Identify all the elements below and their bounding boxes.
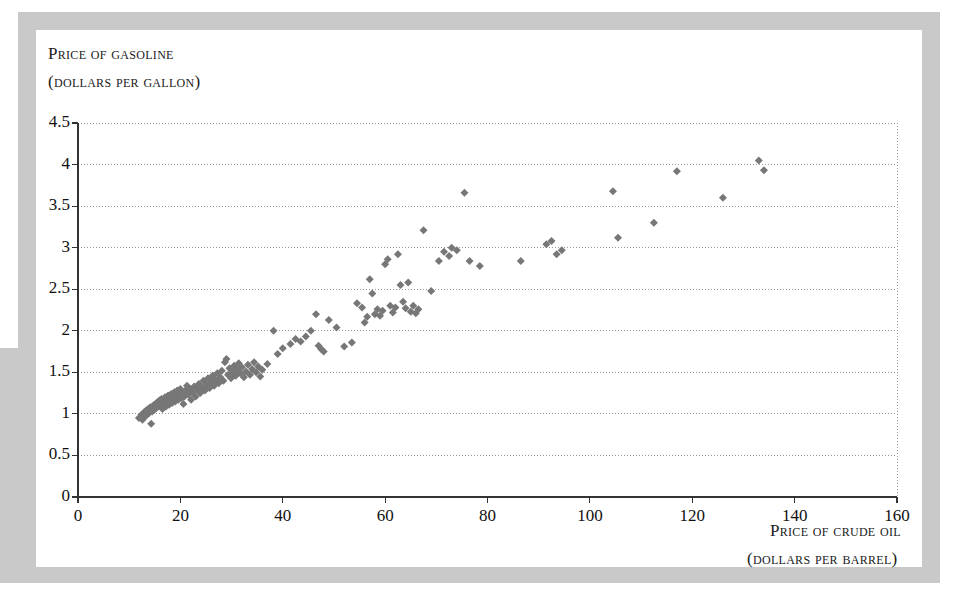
data-point-marker: [307, 327, 315, 335]
x-tick-label: 120: [662, 506, 722, 526]
x-tick-label: 40: [253, 506, 313, 526]
data-point-marker: [466, 257, 474, 265]
y-tick-label: 0: [22, 486, 70, 506]
x-tick-label: 60: [355, 506, 415, 526]
gridlines-group: [78, 123, 897, 497]
data-point-marker: [325, 316, 333, 324]
tick-marks-group: [72, 123, 897, 503]
data-point-marker: [312, 310, 320, 318]
data-point-marker: [394, 250, 402, 258]
data-point-marker: [614, 234, 622, 242]
data-point-marker: [719, 194, 727, 202]
data-point-marker: [460, 189, 468, 197]
y-tick-label: 4.5: [22, 112, 70, 132]
y-tick-label: 1.5: [22, 361, 70, 381]
data-point-marker: [366, 275, 374, 283]
data-point-marker: [420, 226, 428, 234]
data-point-marker: [274, 350, 282, 358]
x-tick-label: 100: [560, 506, 620, 526]
data-point-marker: [348, 338, 356, 346]
y-tick-label: 4: [22, 154, 70, 174]
x-tick-label: 0: [48, 506, 108, 526]
data-point-marker: [396, 281, 404, 289]
data-point-marker: [399, 298, 407, 306]
figure-page: Price of gasoline (dollars per gallon) P…: [0, 0, 958, 606]
data-point-marker: [650, 219, 658, 227]
y-tick-label: 3: [22, 237, 70, 257]
data-point-marker: [340, 343, 348, 351]
y-tick-label: 2.5: [22, 278, 70, 298]
data-point-marker: [435, 257, 443, 265]
data-point-marker: [755, 156, 763, 164]
data-point-marker: [517, 257, 525, 265]
x-tick-label: 140: [765, 506, 825, 526]
data-point-marker: [286, 340, 294, 348]
data-points-group: [135, 156, 768, 427]
data-point-marker: [270, 327, 278, 335]
data-point-marker: [404, 279, 412, 287]
x-tick-label: 20: [150, 506, 210, 526]
data-point-marker: [302, 333, 310, 341]
data-point-marker: [263, 360, 271, 368]
data-point-marker: [476, 262, 484, 270]
x-tick-label: 80: [458, 506, 518, 526]
y-tick-label: 2: [22, 320, 70, 340]
y-tick-label: 0.5: [22, 444, 70, 464]
data-point-marker: [609, 187, 617, 195]
data-point-marker: [673, 167, 681, 175]
data-point-marker: [760, 166, 768, 174]
x-tick-label: 160: [867, 506, 927, 526]
data-point-marker: [427, 287, 435, 295]
y-tick-label: 3.5: [22, 195, 70, 215]
data-point-marker: [279, 344, 287, 352]
data-point-marker: [368, 289, 376, 297]
y-tick-label: 1: [22, 403, 70, 423]
data-point-marker: [332, 323, 340, 331]
data-point-marker: [147, 420, 155, 428]
axis-lines-group: [78, 123, 897, 497]
